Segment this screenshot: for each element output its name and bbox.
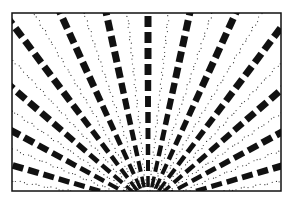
dot <box>135 196 136 197</box>
dash-bar <box>28 170 39 173</box>
dot <box>103 157 104 158</box>
dot <box>73 153 74 154</box>
dot <box>175 119 176 120</box>
dot <box>231 115 232 116</box>
dot <box>74 192 75 193</box>
dot <box>120 173 121 174</box>
dot <box>276 152 277 153</box>
dot <box>220 192 221 193</box>
dot <box>198 150 199 151</box>
dash-bar <box>264 41 271 50</box>
dot <box>47 187 48 188</box>
dash-bar <box>129 164 134 174</box>
dot <box>265 157 266 158</box>
dot <box>145 183 146 184</box>
dash-bar <box>96 91 101 101</box>
dot <box>154 138 155 139</box>
dot <box>263 124 264 125</box>
dot <box>215 5 216 6</box>
dot <box>227 118 228 119</box>
dot <box>164 185 165 186</box>
dot <box>165 201 166 202</box>
dash-bar <box>172 83 174 94</box>
radial-dash-diagram <box>0 0 296 204</box>
dot <box>35 184 36 185</box>
dash-bar <box>271 92 279 99</box>
dot <box>234 58 235 59</box>
dot <box>219 175 220 176</box>
dot <box>202 166 203 167</box>
dot <box>160 99 161 100</box>
dot <box>128 183 129 184</box>
dot <box>244 101 245 102</box>
dash-bar <box>207 118 214 127</box>
dot <box>99 124 100 125</box>
dot <box>168 11 169 12</box>
dot <box>111 165 112 166</box>
dash-bar <box>174 176 182 183</box>
dash-bar <box>123 150 128 160</box>
dot <box>145 186 146 187</box>
dot <box>290 178 291 179</box>
dot <box>56 188 57 189</box>
dot <box>57 52 58 53</box>
dot <box>214 133 215 134</box>
dot <box>39 20 40 21</box>
dot <box>156 179 157 180</box>
dot <box>269 75 270 76</box>
dot <box>67 118 68 119</box>
dot <box>31 79 32 80</box>
dot <box>205 164 206 165</box>
dash-bar <box>53 123 61 130</box>
dot <box>174 193 175 194</box>
dot <box>176 185 177 186</box>
dash-bar <box>115 52 117 63</box>
dot <box>23 72 24 73</box>
dot <box>137 100 138 101</box>
dot <box>80 176 81 177</box>
dash-bar <box>55 199 66 200</box>
dot <box>167 15 168 16</box>
dash-bar <box>73 105 80 114</box>
dot <box>102 196 103 197</box>
dot <box>142 163 143 164</box>
dot <box>152 158 153 159</box>
dash-bar <box>182 202 193 203</box>
dot <box>20 152 21 153</box>
dot <box>83 97 84 98</box>
dot <box>185 189 186 190</box>
dot <box>80 1 81 2</box>
dot <box>132 71 133 72</box>
dot <box>164 179 165 180</box>
dot <box>80 158 81 159</box>
dot <box>74 83 75 84</box>
dash-bar <box>182 36 184 47</box>
dot <box>126 168 127 169</box>
dot <box>194 185 195 186</box>
dot <box>116 171 117 172</box>
dot <box>60 144 61 145</box>
dot <box>186 88 187 89</box>
dot <box>75 174 76 175</box>
dot <box>94 182 95 183</box>
dash-bar <box>176 67 178 78</box>
dot <box>206 141 207 142</box>
dash-bar <box>227 179 238 182</box>
dot <box>128 20 129 21</box>
dot <box>80 89 81 90</box>
dot <box>57 167 58 168</box>
dot <box>177 198 178 199</box>
dash-bar <box>169 150 174 160</box>
dash-bar <box>108 20 110 31</box>
dot <box>130 150 131 151</box>
dot <box>192 173 193 174</box>
dash-bar <box>43 174 54 177</box>
dash-bar <box>109 120 114 130</box>
dot <box>89 141 90 142</box>
dot <box>290 106 291 107</box>
dot <box>186 198 187 199</box>
dot <box>165 43 166 44</box>
dot <box>111 143 112 144</box>
dot <box>125 4 126 5</box>
dot <box>197 58 198 59</box>
